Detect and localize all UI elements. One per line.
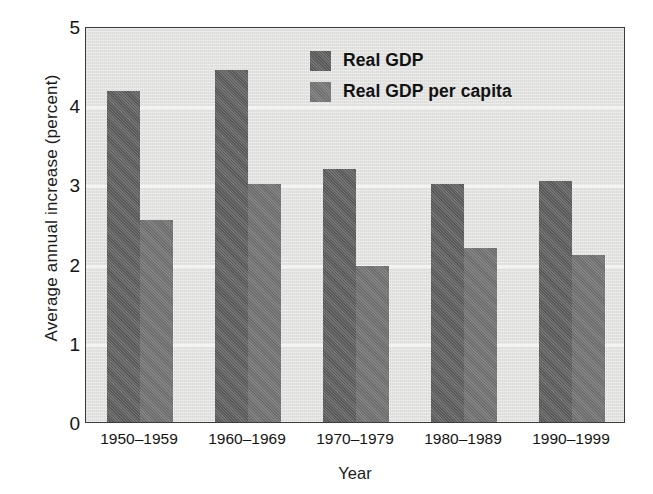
bar-real-gdp bbox=[215, 70, 248, 422]
legend-label-real-gdp-per-capita: Real GDP per capita bbox=[343, 81, 512, 102]
y-axis-tick-labels: 012345 bbox=[52, 0, 80, 494]
x-tick-label: 1990–1999 bbox=[517, 430, 625, 448]
bar-real-gdp bbox=[539, 181, 572, 422]
legend-item-0: Real GDP bbox=[310, 45, 512, 76]
y-tick-label: 4 bbox=[54, 97, 80, 116]
bar-real-gdp bbox=[323, 169, 356, 422]
x-axis-title: Year bbox=[85, 464, 625, 483]
legend-swatch-real-gdp-per-capita bbox=[310, 82, 331, 102]
y-tick-label: 2 bbox=[54, 256, 80, 275]
legend-item-1: Real GDP per capita bbox=[310, 76, 512, 107]
bar-real-gdp-per-capita bbox=[140, 220, 173, 422]
bar-real-gdp bbox=[431, 184, 464, 422]
x-axis-tick-labels: 1950–19591960–19691970–19791980–19891990… bbox=[85, 430, 625, 456]
plot-area: Real GDP Real GDP per capita bbox=[85, 27, 625, 423]
y-tick-label: 3 bbox=[54, 176, 80, 195]
bar-real-gdp-per-capita bbox=[464, 248, 497, 422]
bar-real-gdp-per-capita bbox=[356, 266, 389, 422]
x-tick-label: 1950–1959 bbox=[85, 430, 193, 448]
legend-label-real-gdp: Real GDP bbox=[343, 50, 424, 71]
y-tick-label: 0 bbox=[54, 414, 80, 433]
y-tick-label: 1 bbox=[54, 335, 80, 354]
legend-swatch-real-gdp bbox=[310, 51, 331, 71]
legend: Real GDP Real GDP per capita bbox=[310, 45, 512, 107]
y-tick-label: 5 bbox=[54, 18, 80, 37]
bar-real-gdp-per-capita bbox=[572, 255, 605, 422]
x-tick-label: 1980–1989 bbox=[409, 430, 517, 448]
x-tick-label: 1960–1969 bbox=[193, 430, 301, 448]
x-tick-label: 1970–1979 bbox=[301, 430, 409, 448]
bar-real-gdp bbox=[107, 91, 140, 422]
bar-real-gdp-per-capita bbox=[248, 184, 281, 422]
bar-chart-figure: Average annual increase (percent) 012345… bbox=[0, 0, 653, 494]
